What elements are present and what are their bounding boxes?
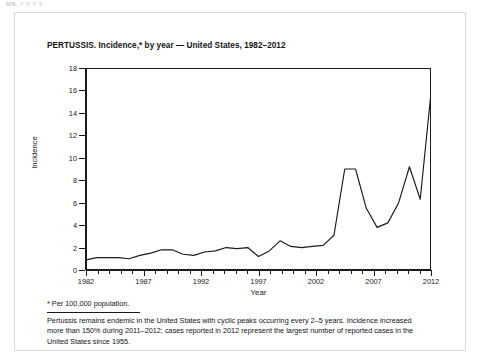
x-axis-tick <box>201 270 202 276</box>
y-axis-tick <box>79 248 85 249</box>
y-axis-tick-label: 8 <box>5 176 77 185</box>
x-axis-tick <box>282 270 283 274</box>
x-axis-tick <box>121 270 122 274</box>
x-axis-tick <box>190 270 191 274</box>
x-axis-tick <box>431 270 432 276</box>
y-axis-tick-label: 12 <box>5 131 77 140</box>
y-axis-tick-label: 0 <box>5 266 77 275</box>
x-axis-tick <box>385 270 386 274</box>
incidence-line-series <box>86 68 431 270</box>
y-axis-tick-label: 4 <box>5 221 77 230</box>
y-axis-tick <box>79 90 85 91</box>
y-axis-tick-label: 16 <box>5 86 77 95</box>
x-axis-tick <box>270 270 271 274</box>
x-axis-tick <box>144 270 145 276</box>
x-axis-tick <box>132 270 133 274</box>
x-axis-tick <box>86 270 87 276</box>
x-axis-tick <box>362 270 363 274</box>
x-axis-tick <box>305 270 306 274</box>
y-axis-tick-label: 6 <box>5 199 77 208</box>
x-axis-tick-label: 1982 <box>78 277 94 286</box>
y-axis-tick <box>79 135 85 136</box>
x-axis-tick <box>351 270 352 274</box>
x-axis-tick <box>236 270 237 274</box>
x-axis-tick <box>397 270 398 274</box>
footnote-divider <box>47 312 140 313</box>
x-axis-tick-label: 2002 <box>308 277 324 286</box>
x-axis-tick <box>109 270 110 274</box>
x-axis-tick <box>328 270 329 274</box>
y-axis-title: Incidence <box>30 113 39 193</box>
x-axis-tick-label: 1997 <box>250 277 266 286</box>
figure-commentary: Pertussis remains endemic in the United … <box>47 316 429 347</box>
x-axis-tick-label: 2012 <box>423 277 439 286</box>
y-axis-tick-label: 18 <box>5 64 77 73</box>
x-axis-tick-label: 2007 <box>365 277 381 286</box>
y-axis-tick <box>79 270 85 271</box>
y-axis-tick <box>79 158 85 159</box>
x-axis-tick-label: 1987 <box>135 277 151 286</box>
x-axis-tick <box>408 270 409 274</box>
x-axis-tick-label: 1992 <box>193 277 209 286</box>
x-axis-tick <box>420 270 421 274</box>
x-axis-title: Year <box>86 288 431 297</box>
x-axis-tick <box>155 270 156 274</box>
y-axis-tick <box>79 203 85 204</box>
y-axis-tick-label: 2 <box>5 244 77 253</box>
x-axis-tick <box>178 270 179 274</box>
y-axis-tick <box>79 68 85 69</box>
x-axis-tick <box>293 270 294 274</box>
y-axis-labels: 024681012141618 <box>0 0 77 363</box>
figure-title: PERTUSSIS. Incidence,* by year — United … <box>47 41 286 50</box>
y-axis-tick-label: 10 <box>5 154 77 163</box>
x-axis-tick <box>167 270 168 274</box>
y-axis-tick <box>79 225 85 226</box>
y-axis-tick <box>79 180 85 181</box>
x-axis-tick <box>259 270 260 276</box>
x-axis-tick <box>98 270 99 274</box>
y-axis-tick-label: 14 <box>5 109 77 118</box>
x-axis-tick <box>316 270 317 276</box>
figure-footnote: * Per 100,000 population. <box>47 299 129 308</box>
y-axis-tick <box>79 113 85 114</box>
x-axis-tick <box>374 270 375 276</box>
x-axis-tick <box>213 270 214 274</box>
x-axis-tick <box>247 270 248 274</box>
x-axis-tick <box>224 270 225 274</box>
x-axis-tick <box>339 270 340 274</box>
